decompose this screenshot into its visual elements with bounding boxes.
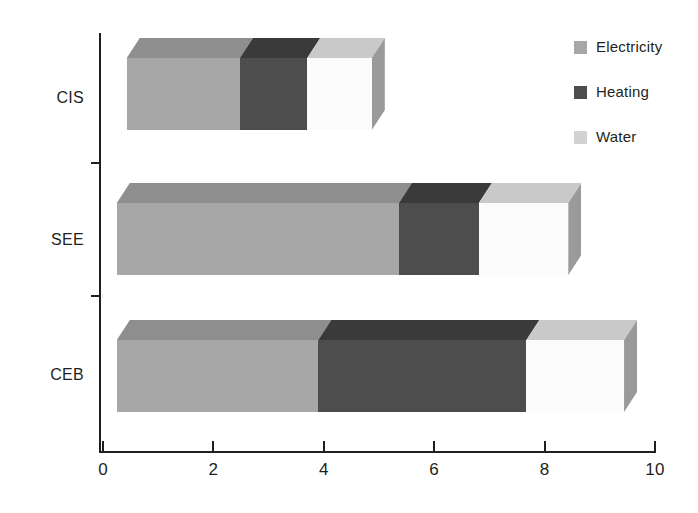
x-axis-tick-label: 8 — [523, 459, 567, 480]
bar-segment-see-electricity — [117, 203, 399, 275]
y-axis-category-label-ceb: CEB — [0, 365, 84, 385]
legend-label: Heating — [596, 83, 649, 101]
x-axis-line — [99, 451, 656, 453]
x-axis-tick-label: 10 — [633, 459, 677, 480]
x-axis-tick — [323, 441, 325, 452]
bar-segment-top-ceb-water — [526, 320, 637, 340]
legend-label: Water — [596, 128, 636, 146]
y-axis-category-label-cis: CIS — [0, 88, 84, 108]
bar-segment-see-heating — [399, 203, 479, 275]
bar-segment-top-ceb-electricity — [117, 320, 331, 340]
x-axis-tick-label: 2 — [191, 459, 235, 480]
bar-segment-ceb-electricity — [117, 340, 318, 412]
x-axis-tick — [433, 441, 435, 452]
legend-swatch-icon — [574, 131, 587, 144]
legend-item-electricity[interactable]: Electricity — [574, 38, 698, 56]
x-axis-tick-label: 6 — [412, 459, 456, 480]
bar-segment-see-water — [479, 203, 568, 275]
x-axis-tick — [544, 441, 546, 452]
y-axis-category-label-see: SEE — [0, 230, 84, 250]
bar-segment-top-cis-water — [307, 38, 385, 58]
x-axis-tick — [102, 441, 104, 452]
legend: ElectricityHeatingWater — [574, 38, 698, 173]
bar-segment-top-see-water — [479, 183, 581, 203]
bar-segment-ceb-water — [526, 340, 624, 412]
bar-segment-top-ceb-heating — [318, 320, 539, 340]
legend-item-heating[interactable]: Heating — [574, 83, 698, 101]
bar-segment-cis-heating — [240, 58, 307, 130]
chart-container: 0246810 CISSEECEB ElectricityHeatingWate… — [0, 0, 698, 513]
y-axis-tick — [91, 295, 100, 297]
legend-label: Electricity — [596, 38, 662, 56]
bar-segment-top-cis-electricity — [127, 38, 253, 58]
bar-segment-top-cis-heating — [240, 38, 320, 58]
x-axis-tick-label: 4 — [302, 459, 346, 480]
x-axis-tick-label: 0 — [81, 459, 125, 480]
x-axis-tick — [654, 441, 656, 452]
y-axis-line — [99, 33, 101, 453]
bar-segment-ceb-heating — [318, 340, 526, 412]
x-axis-tick — [212, 441, 214, 452]
bar-segment-top-see-heating — [399, 183, 492, 203]
y-axis-tick — [91, 162, 100, 164]
legend-swatch-icon — [574, 86, 587, 99]
legend-swatch-icon — [574, 41, 587, 54]
bar-segment-cis-water — [307, 58, 372, 130]
bar-segment-cis-electricity — [127, 58, 240, 130]
legend-item-water[interactable]: Water — [574, 128, 698, 146]
bar-segment-top-see-electricity — [117, 183, 412, 203]
